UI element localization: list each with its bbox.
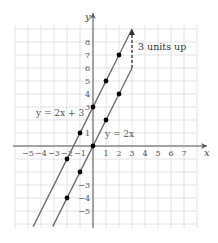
- svg-text:3: 3: [129, 149, 134, 158]
- svg-text:−4: −4: [78, 194, 90, 203]
- chart-container: −5−4−3−2−11234567−5−4−31345678 y x y = 2…: [0, 0, 218, 243]
- svg-text:6: 6: [85, 64, 90, 73]
- svg-text:5: 5: [85, 77, 90, 86]
- svg-text:7: 7: [85, 51, 90, 60]
- svg-text:−3: −3: [48, 149, 60, 158]
- line2-label: y = 2x: [104, 129, 134, 139]
- svg-text:7: 7: [181, 149, 186, 158]
- svg-text:−1: −1: [74, 149, 86, 158]
- svg-text:4: 4: [142, 149, 147, 158]
- svg-text:6: 6: [168, 149, 173, 158]
- svg-text:8: 8: [85, 38, 90, 47]
- svg-text:−4: −4: [35, 149, 47, 158]
- grid: [15, 25, 197, 228]
- svg-text:−5: −5: [22, 149, 34, 158]
- x-axis-label: x: [204, 147, 210, 158]
- svg-text:4: 4: [85, 90, 90, 99]
- svg-text:2: 2: [116, 149, 121, 158]
- svg-text:5: 5: [155, 149, 160, 158]
- tick-labels: −5−4−3−2−11234567−5−4−31345678: [22, 38, 186, 216]
- line-chart: −5−4−3−2−11234567−5−4−31345678 y x y = 2…: [0, 0, 218, 243]
- svg-text:1: 1: [85, 129, 90, 138]
- y-axis-label: y: [84, 11, 91, 22]
- shift-annotation: 3 units up: [138, 41, 186, 52]
- line1-label: y = 2x + 3: [35, 108, 84, 118]
- svg-text:−3: −3: [78, 181, 90, 190]
- svg-text:1: 1: [103, 149, 108, 158]
- svg-text:−5: −5: [78, 207, 90, 216]
- svg-text:3: 3: [85, 103, 90, 112]
